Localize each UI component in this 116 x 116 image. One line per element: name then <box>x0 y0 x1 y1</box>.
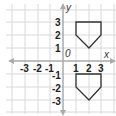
x-axis-arrow-right-icon <box>110 58 116 64</box>
x-tick-label: 3 <box>98 63 104 74</box>
y-tick-label: 1 <box>55 43 61 54</box>
y-tick-label: -2 <box>52 83 61 94</box>
y-axis-label: y <box>65 2 72 13</box>
origin-label: 0 <box>65 48 71 59</box>
x-axis-arrow-left-icon <box>8 58 14 64</box>
x-tick-label: 1 <box>73 63 79 74</box>
coordinate-plane: y x 0 -3 -2 -1 1 2 3 3 2 1 -1 -2 -3 <box>0 0 116 116</box>
y-tick-label: -3 <box>52 96 61 107</box>
y-tick-label: 2 <box>55 30 61 41</box>
grid <box>6 4 116 114</box>
x-axis-label: x <box>103 49 110 60</box>
x-tick-label: -3 <box>20 63 29 74</box>
x-tick-label: 2 <box>86 63 92 74</box>
y-tick-label: 3 <box>55 17 61 28</box>
axes <box>8 3 116 116</box>
x-tick-label: -2 <box>33 63 42 74</box>
y-tick-label: -1 <box>52 70 61 81</box>
y-axis-arrow-down-icon <box>60 110 66 116</box>
